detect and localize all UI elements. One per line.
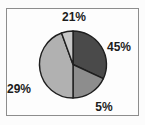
pie-slice-label: 5% [95, 100, 112, 114]
pie-slice-label: 45% [107, 40, 131, 54]
pie-slice-label: 21% [62, 10, 86, 24]
pie-chart-figure: 45% 5% 29% 21% [0, 0, 145, 125]
pie-slice-label: 29% [7, 82, 31, 96]
